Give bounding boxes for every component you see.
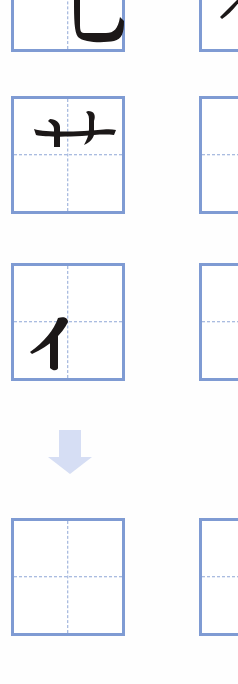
practice-box-2-left <box>11 96 125 214</box>
practice-box-1-right <box>199 0 238 52</box>
horizontal-guide <box>14 576 122 577</box>
character-stroke <box>202 0 238 55</box>
character-stroke <box>14 0 128 55</box>
practice-box-3-right <box>199 263 238 381</box>
practice-box-4-right <box>199 518 238 636</box>
character-stroke-ren <box>14 266 128 384</box>
horizontal-guide <box>202 576 238 577</box>
practice-box-3-left <box>11 263 125 381</box>
practice-box-2-right <box>199 96 238 214</box>
horizontal-guide <box>202 154 238 155</box>
horizontal-guide <box>202 321 238 322</box>
down-arrow-icon <box>48 430 92 474</box>
practice-box-4-left <box>11 518 125 636</box>
character-stroke-cao <box>14 99 128 217</box>
practice-box-1-left <box>11 0 125 52</box>
